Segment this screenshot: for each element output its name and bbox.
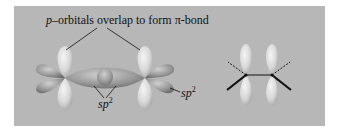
pi-bond-label: p–orbitals overlap to form π-bond [46, 13, 209, 28]
sp2-center-label: sp2 [98, 96, 113, 112]
ethylene-pi-sketch [227, 44, 291, 106]
sigma-bond-orbital [65, 68, 145, 89]
sp2-right-label: sp2 [181, 85, 196, 101]
